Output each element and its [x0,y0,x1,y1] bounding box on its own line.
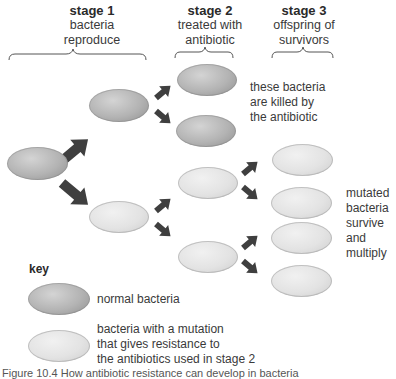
survive-annotation-line-1: mutated [346,186,389,201]
arrow-icon [239,182,263,205]
key-mutant-swatch [28,330,90,362]
figure-caption: Figure 10.4 How antibiotic resistance ca… [2,367,299,379]
arrow-icon [152,106,176,129]
arrow-icon [152,219,176,242]
bacterium-normal-killed-2 [176,115,236,147]
bacterium-mutant-stage2-1 [178,167,238,199]
bacterium-mutant-stage2-2 [178,241,238,273]
key-normal-swatch [28,283,90,315]
killed-annotation: these bacteria are killed by the antibio… [250,80,325,125]
bacterium-mutant-stage3-2 [271,187,332,219]
key-mutant-label-line-1: bacteria with a mutation [97,322,255,337]
survive-annotation-line-3: survive [346,216,389,231]
bacterium-normal-offspring [89,89,149,122]
killed-annotation-line-1: these bacteria [250,80,325,95]
survive-annotation-line-5: multiply [346,246,389,261]
arrow-icon [239,256,263,279]
key-normal-label: normal bacteria [97,292,180,307]
killed-annotation-line-2: are killed by [250,95,325,110]
bacterium-mutant-offspring [89,201,149,233]
key-mutant-label-line-2: that gives resistance to [97,337,255,352]
bacterium-normal-parent [7,147,68,180]
survive-annotation-line-4: and [346,231,389,246]
bacterium-normal-killed-1 [177,64,237,96]
key-mutant-label: bacteria with a mutation that gives resi… [97,322,255,367]
stage-3-brace-icon [272,47,333,58]
arrow-icon [152,193,176,216]
bacterium-mutant-stage3-4 [271,265,332,297]
arrow-icon [239,156,263,179]
killed-annotation-line-3: the antibiotic [250,110,325,125]
survive-annotation-line-2: bacteria [346,201,389,216]
key-mutant-label-line-3: the antibiotics used in stage 2 [97,352,255,367]
arrow-icon [152,80,176,103]
stage-2-brace-icon [175,47,233,58]
stage-1-brace-icon [9,49,146,60]
arrow-icon [55,175,95,214]
bacterium-mutant-stage3-1 [272,144,333,176]
survive-annotation: mutated bacteria survive and multiply [346,186,389,261]
bacterium-mutant-stage3-3 [271,222,332,254]
key-title: key [29,262,49,276]
brace-icons [9,47,333,60]
arrow-icon [239,230,263,253]
